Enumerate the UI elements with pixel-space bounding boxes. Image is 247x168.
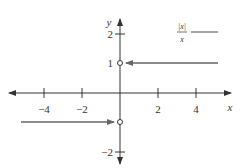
x-tick-label: 2	[155, 103, 161, 115]
y-tick-label: 2	[108, 28, 114, 40]
y-axis-label: y	[106, 16, 112, 28]
chart: −4 −2 2 4 x 2 1 −2 y |x| x	[0, 0, 247, 168]
open-endpoint	[118, 120, 123, 125]
y-axis	[115, 19, 125, 164]
legend-denominator: x	[179, 35, 184, 44]
series-negative	[21, 120, 123, 125]
x-axis-label: x	[227, 101, 233, 113]
x-tick-label: −2	[76, 103, 88, 115]
x-tick-label: −4	[38, 103, 50, 115]
y-tick-label: −2	[101, 146, 113, 158]
open-endpoint	[118, 61, 123, 66]
legend: |x| x	[177, 22, 218, 44]
legend-numerator: |x|	[178, 22, 186, 31]
y-tick-label: 1	[108, 57, 114, 69]
x-tick-label: 4	[193, 103, 199, 115]
series-positive	[118, 61, 219, 66]
